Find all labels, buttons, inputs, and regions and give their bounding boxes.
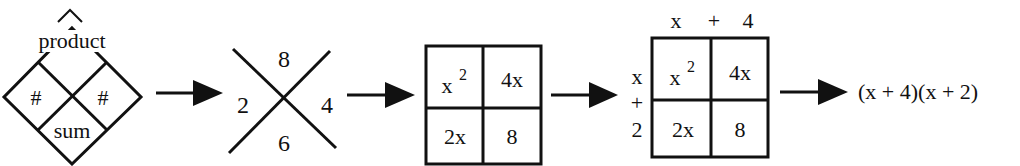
diamond-top-cap bbox=[58, 10, 82, 22]
area-box-2: x + 4 x + 2 x 2 4x 2x 8 bbox=[631, 8, 768, 157]
box-2-bottom-left: 2x bbox=[672, 117, 694, 142]
arrow-right-icon bbox=[347, 82, 415, 108]
factored-result: (x + 4)(x + 2) bbox=[858, 79, 978, 104]
x-right-value: 4 bbox=[321, 92, 333, 118]
x-top-value: 8 bbox=[278, 46, 290, 72]
box-1-bottom-left: 2x bbox=[444, 124, 466, 149]
box-1-x-squared-base: x bbox=[442, 73, 453, 98]
x-bottom-value: 6 bbox=[278, 130, 290, 156]
box-2-x-squared-base: x bbox=[670, 65, 681, 90]
box-2-top-header-op: + bbox=[708, 8, 720, 33]
box-2-bottom-right: 8 bbox=[735, 117, 746, 142]
box-2-top-header-a: x bbox=[671, 8, 682, 33]
diamond-left-label: # bbox=[31, 85, 42, 110]
diamond-right-label: # bbox=[98, 85, 109, 110]
box-2-side-header-a: x bbox=[632, 64, 643, 89]
box-2-top-right: 4x bbox=[729, 60, 751, 85]
arrow-right-icon bbox=[780, 79, 848, 105]
factoring-diagram: product # # sum 8 2 4 6 x 2 4x 2x 8 bbox=[0, 0, 1020, 166]
box-1-bottom-right: 8 bbox=[507, 124, 518, 149]
arrow-right-icon bbox=[156, 80, 223, 106]
diamond-figure: product # # sum bbox=[4, 10, 141, 164]
box-2-top-header-b: 4 bbox=[743, 8, 754, 33]
area-box-1: x 2 4x 2x 8 bbox=[426, 46, 541, 164]
x-figure: 8 2 4 6 bbox=[229, 46, 336, 156]
x-left-value: 2 bbox=[237, 92, 249, 118]
arrow-right-icon bbox=[551, 82, 618, 108]
diamond-sum-label: sum bbox=[54, 118, 91, 143]
box-2-side-header-op: + bbox=[631, 90, 643, 115]
diamond-product-label: product bbox=[38, 28, 105, 53]
box-1-top-right: 4x bbox=[501, 67, 523, 92]
box-1-x-squared-exp: 2 bbox=[459, 66, 467, 83]
box-2-x-squared-exp: 2 bbox=[687, 58, 695, 75]
box-2-side-header-b: 2 bbox=[632, 117, 643, 142]
